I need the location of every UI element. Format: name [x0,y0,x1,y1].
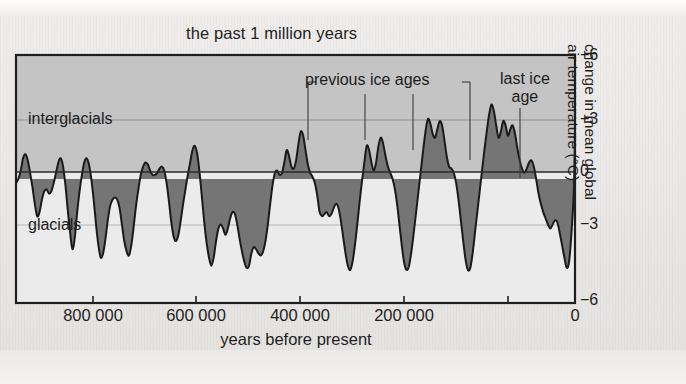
scan-artifact [40,258,44,273]
y-axis-title: change in mean global air temperature (°… [565,44,598,312]
annotation-previous-ice-ages: previous ice ages [305,71,430,89]
x-tick-label-600000: 600 000 [136,306,256,325]
y-axis-title-line1: change in mean global [581,44,598,312]
annotation-last-ice-age: last ice age [500,70,550,106]
x-tick-label-800000: 800 000 [33,306,153,325]
x-tick-label-400000: 400 000 [240,306,360,325]
y-axis-title-line2: air temperature (°C) [565,44,582,312]
annotation-last-ice-age-line2: age [500,88,550,106]
x-axis-title: years before present [0,330,592,349]
annotation-glacials: glacials [28,216,81,234]
figure-container: the past 1 million years [0,0,686,384]
annotation-last-ice-age-line1: last ice [500,70,550,88]
x-tick-label-200000: 200 000 [344,306,464,325]
annotation-interglacials: interglacials [28,110,112,128]
